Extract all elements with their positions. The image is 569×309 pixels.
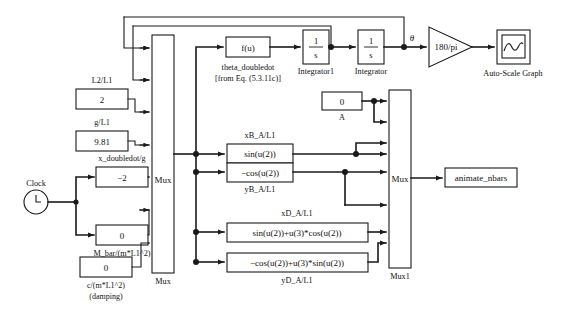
- constant-value-a: 0: [340, 97, 345, 107]
- constant-block-mbar[interactable]: 0: [96, 225, 148, 245]
- integrator-block[interactable]: 1 s: [358, 30, 384, 64]
- expression-text-xd: sin(u(2))+u(3)*cos(u(2)): [252, 228, 341, 238]
- clock-output-wire: [48, 177, 94, 235]
- constant-label-damping-1: c/(m*L1^2): [87, 281, 125, 290]
- expression-label-xd: xD_A/L1: [281, 209, 312, 218]
- clock-block[interactable]: Clock: [24, 179, 48, 214]
- expression-label-xb: xB_A/L1: [245, 131, 276, 140]
- integrator1-denominator: s: [314, 50, 317, 60]
- fcn-block[interactable]: f(u): [226, 37, 270, 57]
- diagram-svg: Mux Mux Clock 2: [0, 0, 569, 309]
- expression-block-yb[interactable]: −cos(u(2)): [227, 163, 293, 182]
- expression-block-xd[interactable]: sin(u(2))+u(3)*cos(u(2)): [227, 223, 368, 242]
- wire-gl1-to-mux: [128, 141, 149, 145]
- constant-block-a[interactable]: 0: [322, 92, 362, 110]
- scope-label: Auto-Scale Graph: [483, 69, 542, 78]
- expression-block-xb[interactable]: sin(u(2)): [227, 144, 293, 163]
- expression-label-yd: yD_A/L1: [281, 276, 312, 285]
- expression-block-yd[interactable]: −cos(u(2))+u(3)*sin(u(2)): [227, 253, 368, 272]
- mux1-name-label: Mux1: [390, 272, 410, 281]
- sink-block-text: animate_nbars: [455, 173, 508, 183]
- integrator-denominator: s: [369, 50, 372, 60]
- wire-xb-to-mux1: [293, 143, 386, 157]
- integrator-label: Integrator: [355, 67, 388, 76]
- constant-value-damping: 0: [104, 263, 109, 273]
- constant-value-l2l1: 2: [100, 95, 105, 105]
- theta-signal-label: θ: [410, 33, 415, 43]
- constant-block-damping[interactable]: 0: [80, 257, 132, 277]
- block-diagram-canvas: Mux Mux Clock 2: [0, 0, 569, 309]
- wire-yd-to-mux1: [368, 243, 386, 262]
- constant-label-gl1: g/L1: [94, 118, 109, 127]
- integrator1-label: Integrator1: [298, 67, 334, 76]
- constant-label-damping-2: (damping): [89, 292, 123, 301]
- clock-label: Clock: [26, 179, 46, 188]
- mux-inner-label: Mux: [154, 175, 172, 185]
- wire-integrator1-to-integrator: [328, 44, 355, 50]
- constant-value-gl1: 9.81: [94, 137, 110, 147]
- wire-integrator-to-gain: [384, 44, 426, 50]
- expression-text-xb: sin(u(2)): [244, 149, 276, 159]
- mux1-inner-label: Mux: [391, 174, 409, 184]
- integrator-numerator: 1: [369, 36, 373, 46]
- constant-label-a: A: [339, 113, 345, 122]
- constant-block-l2l1[interactable]: 2: [76, 89, 128, 109]
- fcn-caption-line2: [from Eq. (5.3.11c)]: [215, 74, 281, 83]
- constant-label-l2l1: L2/L1: [92, 76, 112, 85]
- integrator1-block[interactable]: 1 s: [303, 30, 329, 64]
- expression-label-yb: yB_A/L1: [245, 185, 276, 194]
- wire-a-to-mux1: [362, 98, 386, 122]
- constant-label-xddotg: x_doubledot/g: [98, 154, 145, 163]
- wire-l2l1-to-mux: [128, 99, 149, 112]
- integrator1-numerator: 1: [314, 36, 318, 46]
- gain-block-text: 180/pi: [434, 42, 458, 52]
- constant-block-gl1[interactable]: 9.81: [76, 131, 128, 151]
- expression-text-yb: −cos(u(2)): [241, 168, 279, 178]
- wire-yb-to-mux1: [293, 169, 386, 205]
- mux-block[interactable]: Mux: [152, 35, 174, 273]
- mux-name-label: Mux: [155, 277, 170, 286]
- gain-block[interactable]: 180/pi: [429, 27, 472, 67]
- mux1-block[interactable]: Mux: [389, 90, 411, 268]
- constant-value-xddotg: −2: [117, 173, 127, 183]
- scope-block[interactable]: [497, 30, 530, 64]
- fcn-block-text: f(u): [241, 43, 255, 53]
- expression-text-yd: −cos(u(2))+u(3)*sin(u(2)): [250, 258, 344, 268]
- fcn-caption-line1: theta_doubledot: [222, 63, 275, 72]
- sink-block-animate-nbars[interactable]: animate_nbars: [445, 168, 517, 187]
- constant-value-mbar: 0: [120, 231, 125, 241]
- constant-block-xddotg[interactable]: −2: [96, 167, 148, 187]
